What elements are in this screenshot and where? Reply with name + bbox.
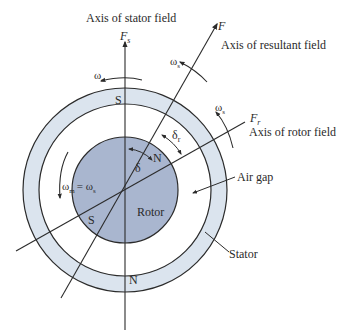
rotor-axis-label: Axis of rotor field bbox=[249, 125, 336, 139]
air-gap-label: Air gap bbox=[237, 170, 273, 184]
resultant-axis-label: Axis of resultant field bbox=[221, 38, 326, 52]
stator-rotation-arrow bbox=[101, 78, 142, 81]
rotor-label: Rotor bbox=[137, 205, 164, 219]
stator-field-vector-label: Fs bbox=[119, 29, 130, 45]
rotor-pole-south: S bbox=[88, 213, 95, 227]
stator-speed-label: ωs bbox=[94, 69, 104, 84]
resultant-field-vector-label: F bbox=[217, 19, 226, 33]
rotor-pole-north: N bbox=[153, 151, 162, 165]
stator-label: Stator bbox=[229, 247, 258, 261]
resultant-speed-label: ωs bbox=[170, 55, 180, 70]
stator-axis-label: Axis of stator field bbox=[86, 11, 176, 25]
stator-pole-bottom: N bbox=[129, 273, 138, 287]
delta-label: δ bbox=[135, 161, 141, 175]
stator-pole-top: S bbox=[115, 93, 122, 107]
rotor-axis-speed-label: ωs bbox=[215, 101, 225, 116]
synchronous-machine-diagram: Axis of stator field Axis of resultant f… bbox=[0, 0, 338, 331]
rotor-field-vector-label: Fr bbox=[249, 111, 261, 127]
